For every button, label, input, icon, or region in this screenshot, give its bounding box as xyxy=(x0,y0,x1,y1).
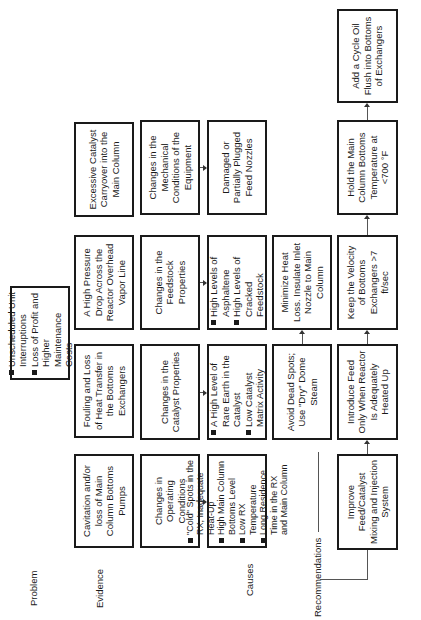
evidence-text: A High Pressure Drop Across the Reactor … xyxy=(81,241,127,324)
recommendation-text: Keep the Velocity of Bottoms Exchangers … xyxy=(345,241,391,324)
recommendations-bracket xyxy=(318,452,319,532)
recommendation-text: Avoid Dead Spots; Use "Dry" Dome Steam xyxy=(285,350,320,434)
evidence-box-pressure-drop: A High Pressure Drop Across the Reactor … xyxy=(74,235,134,330)
row-label-causes: Causes xyxy=(244,564,255,596)
cause-category-text: Changes in the Feedstock Properties xyxy=(153,241,188,324)
recommendation-text: Improve Feed/Catalyst Mixing and Injecti… xyxy=(345,460,391,544)
cause-category-text: Changes in the Mechanical Conditions of … xyxy=(147,126,193,209)
recommendation-text: Minimize Heat Loss. Insulate Inlet Nozzl… xyxy=(279,241,325,324)
cause-detail-item: Low RX Temperature xyxy=(237,459,258,543)
cause-detail-mechanical: Damaged or Partially Plugged Feed Nozzle… xyxy=(207,120,267,215)
cause-detail-item: High Levels of Asphaltene xyxy=(208,240,231,325)
problem-box: Unscheduled Unit Interruptions Loss of P… xyxy=(10,286,70,380)
problem-item: Loss of Profit and Higher Maintenance Co… xyxy=(29,291,75,375)
recommendation-exchanger-velocity: Keep the Velocity of Bottoms Exchangers … xyxy=(337,235,398,330)
recommendation-text: Introduce Feed Only When Reactor Is Adeq… xyxy=(345,350,391,434)
recommendation-introduce-feed: Introduce Feed Only When Reactor Is Adeq… xyxy=(337,344,398,440)
recommendation-feed-mixing: Improve Feed/Catalyst Mixing and Injecti… xyxy=(337,454,398,550)
row-label-problem: Problem xyxy=(28,571,39,606)
recommendation-bottoms-temperature: Hold the Main Column Bottoms Temperature… xyxy=(337,120,398,215)
evidence-box-pumps: Cavitation and/or loss of Main Column Bo… xyxy=(74,454,134,548)
cause-category-feedstock: Changes in the Feedstock Properties xyxy=(140,235,200,330)
evidence-text: Fouling and Loss of Heat Transfer in the… xyxy=(81,350,127,432)
arrow-head xyxy=(299,330,305,334)
arrow-head xyxy=(364,215,370,219)
arrow-head xyxy=(364,103,370,107)
recommendations-bracket xyxy=(367,550,368,580)
evidence-text: Cavitation and/or loss of Main Column Bo… xyxy=(81,460,127,542)
row-label-recommendations: Recommendations xyxy=(312,538,323,617)
arrow-head xyxy=(364,330,370,334)
cause-detail-feedstock: High Levels of Asphaltene High Levels of… xyxy=(207,235,267,330)
recommendations-bracket xyxy=(320,579,368,580)
cause-detail-item: Low Catalyst Matrix Activity xyxy=(243,349,266,435)
evidence-box-catalyst-carryover: Excessive Catalyst Carryover into the Ma… xyxy=(74,122,134,217)
recommendation-heat-loss: Minimize Heat Loss. Insulate Inlet Nozzl… xyxy=(272,235,332,330)
recommendation-dead-spots: Avoid Dead Spots; Use "Dry" Dome Steam xyxy=(272,344,332,440)
cause-detail-item: A High Level of Rare Earth in the Cataly… xyxy=(208,349,243,435)
rotated-diagram-canvas: Problem Evidence Causes Recommendations … xyxy=(0,0,421,620)
evidence-text: Excessive Catalyst Carryover into the Ma… xyxy=(87,128,122,211)
cause-category-catalyst: Changes in the Catalyst Properties xyxy=(140,344,200,440)
cause-category-mechanical: Changes in the Mechanical Conditions of … xyxy=(140,120,200,215)
cause-detail-operating: "Cold" Spots in the RX, Inadequate Heat-… xyxy=(207,454,267,548)
cause-category-text: Changes in Operating Conditions xyxy=(153,460,188,542)
recommendation-text: Add a Cycle Oil Flush into Bottoms of Ex… xyxy=(350,15,385,97)
row-label-evidence: Evidence xyxy=(94,569,105,608)
cause-detail-item: High Main Column Bottoms Level xyxy=(216,459,237,543)
cause-category-text: Changes in the Catalyst Properties xyxy=(159,350,182,434)
cause-detail-item: High Levels of Cracked Feedstock xyxy=(231,240,266,325)
problem-item: Unscheduled Unit Interruptions xyxy=(6,291,29,375)
connector-line xyxy=(367,217,368,235)
recommendation-text: Hold the Main Column Bottoms Temperature… xyxy=(345,126,391,209)
cause-detail-text: Damaged or Partially Plugged Feed Nozzle… xyxy=(220,126,255,209)
cause-detail-item: Long Residence Time in the RX and Main C… xyxy=(258,459,290,543)
recommendation-cycle-oil-flush: Add a Cycle Oil Flush into Bottoms of Ex… xyxy=(337,9,398,103)
cause-detail-catalyst: A High Level of Rare Earth in the Cataly… xyxy=(207,344,267,440)
evidence-box-fouling: Fouling and Loss of Heat Transfer in the… xyxy=(74,344,134,438)
arrow-head xyxy=(364,440,370,444)
connector-line xyxy=(367,105,368,120)
cause-detail-item: "Cold" Spots in the RX, Inadequate Heat-… xyxy=(185,459,217,543)
